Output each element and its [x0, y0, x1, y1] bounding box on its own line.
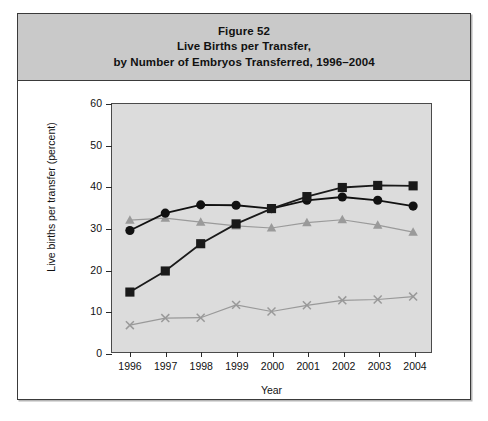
x-axis-tick-label: 1999 — [225, 360, 248, 372]
data-point — [302, 192, 311, 201]
data-point — [125, 226, 134, 235]
x-axis-tick-label: 2001 — [296, 360, 319, 372]
data-point — [373, 181, 382, 190]
data-point — [338, 215, 347, 224]
data-point — [409, 202, 418, 211]
x-axis-tick-label: 1998 — [190, 360, 213, 372]
y-axis-tick — [106, 354, 112, 355]
y-axis-tick-label: 0 — [96, 347, 102, 359]
y-axis-tick-label: 20 — [90, 264, 102, 276]
y-axis-tick — [106, 146, 112, 147]
x-axis-tick — [308, 352, 309, 357]
figure-title-line-2: Live Births per Transfer, — [177, 39, 311, 55]
x-axis-tick-label: 2002 — [332, 360, 355, 372]
data-point — [125, 288, 134, 297]
data-point — [196, 200, 205, 209]
y-axis-tick — [106, 271, 112, 272]
data-point — [409, 181, 418, 190]
x-axis-tick-label: 1996 — [118, 360, 141, 372]
x-axis-title: Year — [111, 384, 432, 396]
data-point — [373, 196, 382, 205]
y-axis-tick — [106, 104, 112, 105]
x-axis-tick-label: 2004 — [403, 360, 426, 372]
x-axis-tick — [201, 352, 202, 357]
x-axis-tick-label: 2003 — [368, 360, 391, 372]
x-axis-tick — [273, 352, 274, 357]
y-axis-title: Live births per transfer (percent) — [45, 102, 57, 292]
y-axis-tick-label: 30 — [90, 222, 102, 234]
x-axis-tick — [344, 352, 345, 357]
y-axis-tick-label: 60 — [90, 97, 102, 109]
data-point — [232, 219, 241, 228]
data-point — [338, 192, 347, 201]
series-one — [126, 293, 417, 329]
data-point — [232, 201, 241, 210]
y-axis-tick-label: 40 — [90, 180, 102, 192]
x-axis-tick-label: 2000 — [261, 360, 284, 372]
x-axis-tick-label: 1997 — [154, 360, 177, 372]
plot-area: 0102030405060199619971998199920002001200… — [111, 103, 432, 353]
data-point — [338, 183, 347, 192]
data-point — [161, 266, 170, 275]
figure-frame: Figure 52 Live Births per Transfer, by N… — [17, 13, 471, 400]
x-axis-tick — [130, 352, 131, 357]
series-four-or-more — [125, 213, 418, 236]
series-canvas — [112, 104, 431, 352]
x-axis-tick — [415, 352, 416, 357]
figure-title-line-3: by Number of Embryos Transferred, 1996–2… — [113, 55, 374, 71]
y-axis-tick — [106, 187, 112, 188]
x-axis-tick — [237, 352, 238, 357]
y-axis-tick — [106, 312, 112, 313]
data-point — [161, 209, 170, 218]
y-axis-tick — [106, 229, 112, 230]
x-axis-tick — [166, 352, 167, 357]
x-axis-tick — [379, 352, 380, 357]
chart-area: Live births per transfer (percent) 01020… — [18, 81, 470, 400]
y-axis-tick-label: 50 — [90, 139, 102, 151]
y-axis-tick-label: 10 — [90, 305, 102, 317]
data-point — [267, 204, 276, 213]
figure-title-line-1: Figure 52 — [218, 24, 270, 40]
data-point — [196, 239, 205, 248]
figure-title-band: Figure 52 Live Births per Transfer, by N… — [18, 14, 470, 81]
